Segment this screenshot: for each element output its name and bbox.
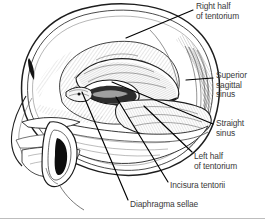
anatomical-figure: Right half of tentorium Superior sagitta…	[0, 0, 265, 219]
label-left-half-of-tentorium: Left half of tentorium	[194, 152, 237, 171]
label-diaphragma-sellae: Diaphragma sellae	[130, 200, 198, 210]
label-straight-sinus: Straight sinus	[216, 119, 244, 138]
illustration-canvas	[0, 0, 265, 219]
pituitary-stalk-aperture	[78, 93, 81, 96]
label-superior-sagittal-sinus: Superior sagittal sinus	[216, 71, 247, 100]
neck-contour	[60, 186, 84, 210]
label-right-half-of-tentorium: Right half of tentorium	[196, 2, 239, 21]
label-incisura-tentorii: Incisura tentorii	[170, 181, 225, 191]
